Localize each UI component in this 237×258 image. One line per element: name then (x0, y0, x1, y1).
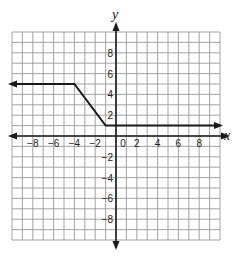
y-tick-label: 8 (107, 48, 113, 59)
x-tick-label: 0 (120, 138, 126, 149)
y-axis-up-arrow-icon (113, 22, 120, 31)
axes (8, 22, 230, 250)
y-tick-label: −6 (102, 193, 114, 204)
y-tick-label: −4 (102, 173, 114, 184)
line-left-arrow-icon (8, 81, 17, 88)
y-axis-down-arrow-icon (113, 241, 120, 250)
x-tick-label: −2 (89, 138, 101, 149)
x-axis-label: x (223, 128, 231, 143)
y-tick-label: 2 (107, 110, 113, 121)
x-tick-label: 6 (176, 138, 182, 149)
x-tick-label: −4 (69, 138, 81, 149)
y-tick-label: 6 (107, 69, 113, 80)
x-tick-label: −8 (27, 138, 39, 149)
x-tick-label: 4 (155, 138, 161, 149)
y-tick-label: −2 (102, 152, 114, 163)
y-tick-label: −8 (102, 214, 114, 225)
coordinate-plane: −8−6−4−2024688642−2−4−6−8 x y (0, 0, 237, 258)
line-right-arrow-icon (214, 122, 223, 129)
x-tick-label: 2 (134, 138, 140, 149)
x-axis-left-arrow-icon (8, 133, 17, 140)
x-tick-label: −6 (48, 138, 60, 149)
y-tick-label: 4 (107, 89, 113, 100)
y-axis-label: y (110, 7, 119, 22)
x-tick-label: 8 (196, 138, 202, 149)
